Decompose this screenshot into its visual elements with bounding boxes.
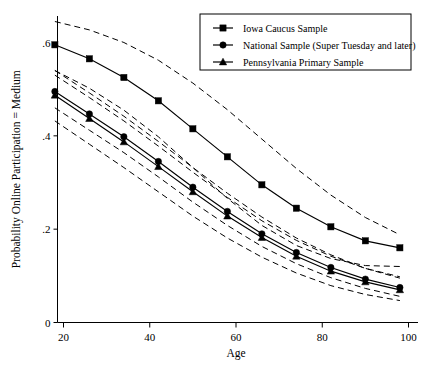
line-chart: 0.2.4.620406080100AgeProbability Online …: [0, 0, 429, 367]
y-tick-label: .2: [42, 223, 50, 235]
data-point-marker: [52, 42, 58, 48]
legend: Iowa Caucus SampleNational Sample (Super…: [200, 14, 415, 70]
y-tick-label: 0: [45, 317, 51, 329]
legend-item-1[interactable]: National Sample (Super Tuesday and later…: [213, 40, 415, 52]
legend-label-1: National Sample (Super Tuesday and later…: [243, 40, 415, 52]
x-tick-label: 80: [317, 331, 329, 343]
series-line-2: [55, 95, 400, 290]
series-1: [52, 88, 403, 290]
data-point-marker: [293, 205, 299, 211]
data-point-marker: [362, 238, 368, 244]
legend-marker-circle-icon: [220, 42, 226, 48]
confidence-band-upper-series-2: [55, 71, 400, 279]
series-group: [51, 42, 403, 293]
x-axis-title: Age: [226, 347, 245, 360]
x-tick-label: 40: [144, 331, 156, 343]
legend-label-2: Pennsylvania Primary Sample: [243, 57, 364, 68]
x-tick-label: 20: [58, 331, 70, 343]
y-tick-label: .6: [42, 37, 51, 49]
legend-marker-square-icon: [220, 25, 226, 31]
confidence-band-upper-series-1: [55, 75, 400, 277]
x-tick-label: 60: [231, 331, 243, 343]
data-point-marker: [397, 245, 403, 251]
data-point-marker: [224, 154, 230, 160]
series-line-1: [55, 92, 400, 288]
data-point-marker: [328, 224, 334, 230]
legend-label-0: Iowa Caucus Sample: [243, 23, 328, 34]
data-point-marker: [190, 126, 196, 132]
confidence-band-lower-series-0: [55, 71, 400, 267]
x-tick-label: 100: [400, 331, 417, 343]
data-point-marker: [86, 56, 92, 62]
series-0: [52, 42, 403, 251]
chart-figure: 0.2.4.620406080100AgeProbability Online …: [0, 0, 429, 367]
data-point-marker: [121, 74, 127, 80]
data-point-marker: [259, 182, 265, 188]
confidence-band-lower-series-1: [55, 108, 400, 297]
y-axis-title: Probability Online Participation = Mediu…: [10, 70, 23, 268]
data-point-marker: [155, 98, 161, 104]
y-tick-label: .4: [42, 130, 51, 142]
